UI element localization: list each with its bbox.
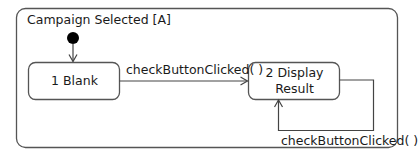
transition-s1-s2-label: checkButtonClicked( ) bbox=[126, 64, 263, 77]
initial-node-icon bbox=[67, 32, 79, 44]
state-1-label-line1: 1 Blank bbox=[51, 73, 98, 88]
state-2-label-line2: Result bbox=[249, 81, 340, 97]
self-transition-s2-label: checkButtonClicked( ) bbox=[281, 135, 418, 148]
composite-state-title: Campaign Selected [A] bbox=[27, 14, 171, 27]
state-1-label: 1 Blank bbox=[29, 73, 120, 89]
